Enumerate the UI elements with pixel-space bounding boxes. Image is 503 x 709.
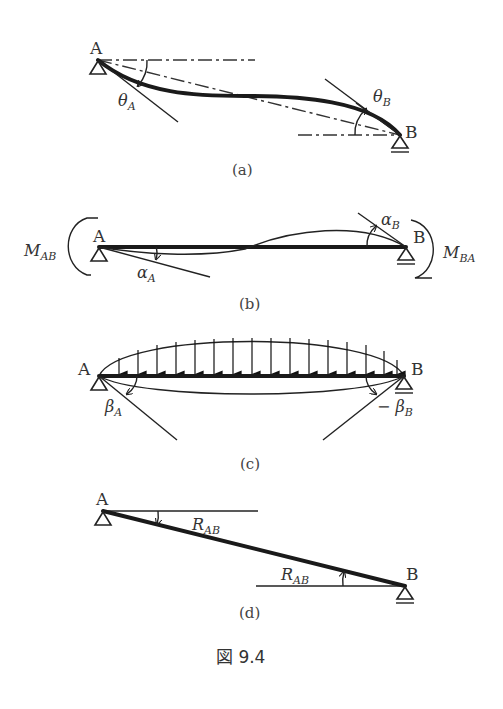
angle-label-theta-a: θA [118, 91, 136, 113]
node-label-a: A [89, 38, 103, 58]
panel-label-c: (c) [240, 455, 260, 473]
angle-arc-a [157, 511, 158, 524]
distributed-load-arrows [119, 338, 397, 374]
deflected-shape [99, 230, 406, 254]
panel-d: A B RAB RAB (d) [95, 489, 419, 622]
figure-caption: 図 9.4 [216, 647, 265, 667]
angle-label-alpha-a: αA [137, 263, 156, 285]
deflected-beam [98, 60, 400, 135]
node-label-a: A [95, 489, 109, 509]
node-label-a: A [92, 226, 106, 246]
roller-support-b [398, 248, 414, 260]
pin-support-a [91, 248, 107, 261]
panel-b: A B MAB MBA αA αB (b) [23, 210, 475, 313]
angle-arc-b [343, 572, 344, 586]
deflected-shape [99, 376, 404, 394]
panel-label-a: (a) [232, 161, 253, 179]
node-label-b: B [405, 122, 418, 142]
angle-label-beta-b: − βB [377, 397, 413, 419]
angle-label-r-ab-top: RAB [191, 515, 220, 537]
panel-c: A B βA − βB (c) [77, 338, 424, 473]
node-label-b: B [411, 359, 424, 379]
beam-rotation-diagram: A B θA θB (a) A B MAB MBA αA αB (b) [0, 0, 503, 709]
node-label-b: B [406, 564, 419, 584]
rotated-chord [103, 511, 405, 586]
angle-label-alpha-b: αB [381, 210, 400, 232]
angle-arc-b [367, 226, 376, 247]
moment-label-mab: MAB [23, 241, 56, 263]
roller-support-b [397, 587, 413, 599]
node-label-b: B [413, 227, 426, 247]
panel-label-d: (d) [239, 604, 260, 622]
panel-label-b: (b) [239, 295, 260, 313]
angle-label-theta-b: θB [373, 87, 391, 109]
angle-label-beta-a: βA [104, 397, 122, 419]
node-label-a: A [77, 359, 91, 379]
moment-label-mba: MBA [442, 243, 475, 265]
panel-a: A B θA θB (a) [89, 38, 418, 179]
angle-label-r-ab-bottom: RAB [280, 565, 309, 587]
